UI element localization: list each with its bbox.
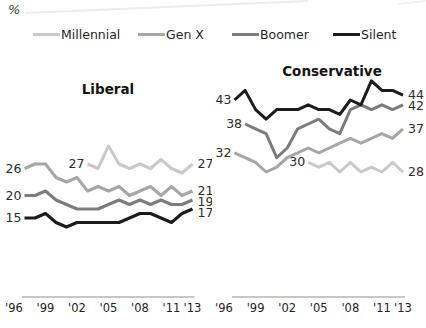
silent-start-value: 15 bbox=[6, 210, 22, 225]
liberal-chart-panel: Liberal'96'99'02'05'08'11'13272620152721… bbox=[6, 56, 212, 324]
ideology-by-generation-chart: { "unit_label": "%", "legend": { "items"… bbox=[0, 0, 426, 328]
x-tick-label: '05 bbox=[100, 301, 118, 315]
millennial-start-value: 27 bbox=[69, 156, 85, 171]
x-tick-label: '99 bbox=[37, 301, 55, 315]
scan-artifact-line bbox=[0, 0, 426, 20]
x-tick-label: '11 bbox=[373, 301, 391, 315]
millennial-end-value: 28 bbox=[408, 164, 424, 179]
boomer-end-value: 42 bbox=[408, 98, 424, 113]
boomer-line-swatch bbox=[232, 33, 259, 36]
millennial-line-swatch bbox=[33, 33, 60, 36]
gen-x-line bbox=[235, 129, 404, 172]
legend-item-millennial: Millennial bbox=[33, 25, 120, 43]
gen-x-line bbox=[25, 164, 193, 196]
liberal-chart-svg: Liberal'96'99'02'05'08'11'13272620152721… bbox=[6, 56, 212, 324]
silent-start-value: 43 bbox=[216, 92, 232, 107]
boomer-start-value: 20 bbox=[6, 188, 22, 203]
x-tick-label: '02 bbox=[68, 301, 86, 315]
percent-axis-label: % bbox=[8, 2, 20, 17]
x-tick-label: '99 bbox=[247, 301, 265, 315]
boomer-line bbox=[25, 191, 193, 209]
legend-item-genx: Gen X bbox=[138, 25, 204, 43]
x-tick-label: '96 bbox=[6, 301, 23, 315]
x-tick-label: '13 bbox=[184, 301, 202, 315]
x-tick-label: '11 bbox=[163, 301, 181, 315]
x-tick-label: '08 bbox=[131, 301, 149, 315]
gen-x-end-value: 37 bbox=[408, 121, 424, 136]
conservative-chart-svg: Conservative'96'99'02'05'08'11'133032384… bbox=[212, 40, 426, 324]
millennial-line bbox=[88, 146, 193, 173]
silent-line bbox=[235, 81, 404, 119]
silent-line bbox=[25, 209, 193, 227]
chart-title: Liberal bbox=[82, 81, 134, 97]
x-tick-label: '02 bbox=[278, 301, 296, 315]
x-tick-label: '13 bbox=[394, 301, 412, 315]
x-tick-label: '05 bbox=[310, 301, 328, 315]
silent-end-value: 17 bbox=[198, 205, 213, 220]
silent-line-swatch bbox=[333, 33, 360, 36]
legend-label: Millennial bbox=[61, 27, 120, 42]
chart-title: Conservative bbox=[282, 63, 382, 79]
x-tick-label: '96 bbox=[215, 301, 233, 315]
millennial-line bbox=[308, 162, 403, 172]
legend-label: Gen X bbox=[166, 27, 204, 42]
x-tick-label: '08 bbox=[341, 301, 359, 315]
gen-x-start-value: 32 bbox=[216, 145, 232, 160]
millennial-end-value: 27 bbox=[198, 156, 213, 171]
boomer-start-value: 38 bbox=[226, 116, 242, 131]
genx-line-swatch bbox=[138, 33, 165, 36]
gen-x-start-value: 26 bbox=[6, 161, 22, 176]
conservative-chart-panel: Conservative'96'99'02'05'08'11'133032384… bbox=[212, 40, 426, 324]
